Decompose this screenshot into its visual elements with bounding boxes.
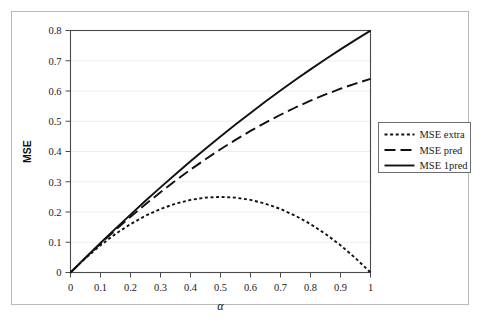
y-tick-label: 0.2 <box>48 207 61 218</box>
x-tick-label: 0.5 <box>214 282 227 293</box>
y-axis: 00.10.20.30.40.50.60.70.8MSE <box>21 25 71 278</box>
series-line-mse-pred <box>71 79 371 273</box>
x-tick-label: 0.9 <box>334 282 347 293</box>
line-chart-svg: 00.10.20.30.40.50.60.70.80.91α00.10.20.3… <box>0 0 485 325</box>
y-tick-label: 0.4 <box>48 146 62 157</box>
y-tick-label: 0.5 <box>48 116 61 127</box>
chart-figure: 00.10.20.30.40.50.60.70.80.91α00.10.20.3… <box>0 0 485 325</box>
x-tick-label: 0.7 <box>274 282 287 293</box>
legend-label-mse-extra: MSE extra <box>420 129 466 140</box>
x-tick-label: 0.4 <box>184 282 198 293</box>
y-axis-title: MSE <box>21 140 33 163</box>
x-tick-label: 0 <box>68 282 73 293</box>
y-tick-label: 0.3 <box>48 177 61 188</box>
y-tick-label: 0.8 <box>48 25 61 36</box>
series-line-mse-extra <box>71 197 371 273</box>
chart-canvas: 00.10.20.30.40.50.60.70.80.91α00.10.20.3… <box>0 0 485 325</box>
x-axis-title: α <box>217 299 224 313</box>
x-tick-label: 1 <box>368 282 373 293</box>
x-tick-label: 0.3 <box>154 282 167 293</box>
y-tick-label: 0.7 <box>48 56 61 67</box>
x-tick-label: 0.1 <box>94 282 107 293</box>
x-tick-label: 0.6 <box>244 282 257 293</box>
legend-label-mse-1pred: MSE 1pred <box>420 160 469 171</box>
x-tick-label: 0.2 <box>124 282 137 293</box>
legend: MSE extraMSE predMSE 1pred <box>379 123 471 173</box>
y-tick-label: 0.6 <box>48 86 61 97</box>
y-tick-label: 0.1 <box>48 237 61 248</box>
legend-label-mse-pred: MSE pred <box>420 145 464 156</box>
y-tick-label: 0 <box>56 267 61 278</box>
x-tick-label: 0.8 <box>304 282 317 293</box>
x-axis: 00.10.20.30.40.50.60.70.80.91α <box>68 273 373 313</box>
